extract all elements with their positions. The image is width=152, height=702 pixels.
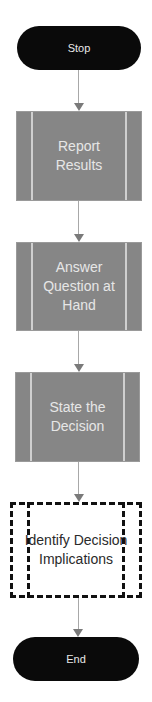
arrowhead-icon [74,364,84,372]
stop-label: Stop [68,42,91,54]
report-results-node: Report Results [16,111,142,201]
connector-state-identify [78,462,79,494]
connector-answer-state [78,331,79,364]
state-decision-label: State the Decision [16,398,139,436]
state-decision-node: State the Decision [15,372,140,462]
connector-report-answer [78,201,79,234]
arrowhead-icon [74,234,84,242]
arrowhead-icon [74,494,84,502]
answer-question-label: Answer Question at Hand [17,258,141,315]
report-results-label: Report Results [17,137,141,175]
end-label: End [66,653,86,665]
identify-implications-node: Identify Decision Implications [10,502,142,598]
end-node: End [13,637,139,681]
identify-implications-label: Identify Decision Implications [13,531,139,569]
arrowhead-icon [73,629,83,637]
connector-stop-report [78,70,79,103]
stop-node: Stop [17,26,141,70]
arrowhead-icon [74,103,84,111]
answer-question-node: Answer Question at Hand [16,242,142,331]
connector-identify-end [78,598,79,629]
